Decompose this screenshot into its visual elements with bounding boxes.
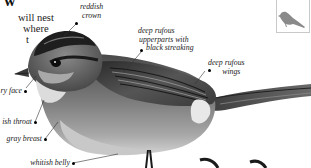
callout-dot-belly — [72, 162, 75, 165]
field-guide-page: w will nest where t — [0, 0, 311, 168]
callout-dot-breast — [44, 138, 47, 141]
label-throat: ish throat — [0, 118, 32, 127]
label-line: wings — [208, 68, 245, 77]
label-line: ish throat — [0, 118, 32, 127]
label-belly: whitish belly — [20, 159, 70, 168]
callout-dot-crown — [75, 22, 78, 25]
callout-dot-face — [24, 90, 27, 93]
label-line: black streaking — [138, 44, 194, 53]
label-line: ry face — [0, 87, 22, 96]
label-wings: deep rufous wings — [208, 59, 245, 76]
label-line: gray breast — [0, 135, 42, 144]
label-breast: gray breast — [0, 135, 42, 144]
label-line: crown — [80, 12, 103, 21]
label-line: whitish belly — [20, 159, 70, 168]
label-upperparts: deep rufous upperparts with black streak… — [138, 27, 194, 53]
label-reddish-crown: reddish crown — [80, 3, 103, 20]
callout-dot-throat — [34, 121, 37, 124]
label-face: ry face — [0, 87, 22, 96]
